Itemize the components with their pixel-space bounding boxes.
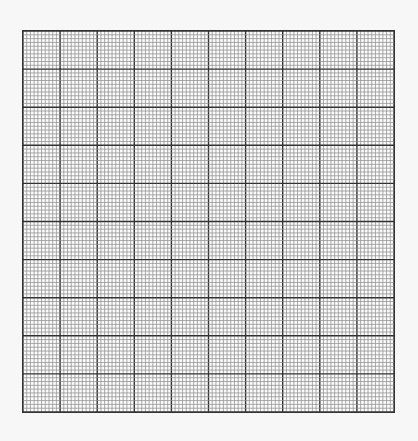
grid-lines — [23, 31, 394, 412]
graph-paper-grid — [22, 30, 395, 413]
